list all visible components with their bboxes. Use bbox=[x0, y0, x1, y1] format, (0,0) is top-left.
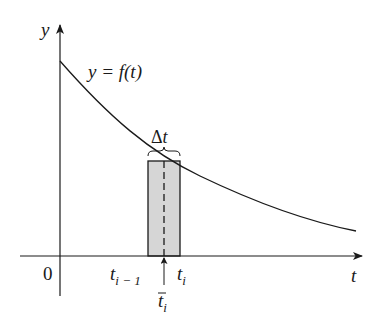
t-axis-label: t bbox=[351, 265, 357, 286]
origin-label: 0 bbox=[43, 263, 53, 284]
curve-f bbox=[60, 61, 356, 231]
sample-point-label: ti bbox=[158, 290, 167, 315]
curve-label: y = f(t) bbox=[86, 61, 142, 83]
riemann-rectangle-diagram: y t 0 y = f(t) Δt ti − 1 ti ti bbox=[0, 0, 387, 324]
y-axis-label: y bbox=[39, 19, 50, 40]
left-endpoint-label: ti − 1 bbox=[110, 263, 141, 288]
delta-t-label: Δt bbox=[151, 127, 169, 147]
right-endpoint-label: ti bbox=[177, 263, 186, 288]
